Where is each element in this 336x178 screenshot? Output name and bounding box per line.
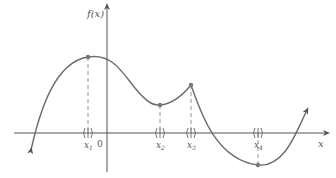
x1-label: x1 — [84, 140, 93, 151]
y-axis-label: f(x) — [86, 8, 104, 19]
critical-points — [86, 55, 260, 167]
function-graph: f(x) x 0 x1 x2 x3 x4 — [0, 0, 336, 178]
x2-label: x2 — [156, 140, 165, 151]
origin-label: 0 — [97, 139, 103, 149]
x4-label: x4 — [254, 140, 263, 151]
x3-label: x3 — [187, 140, 196, 151]
dashed-guides — [88, 57, 258, 165]
curve — [31, 56, 307, 165]
x-axis-label: x — [318, 138, 324, 149]
